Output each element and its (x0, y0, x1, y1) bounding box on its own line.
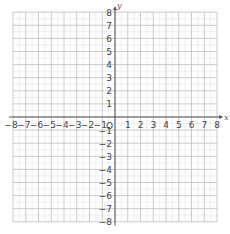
x-tick-label: 6 (189, 120, 195, 130)
x-tick-label: 3 (150, 120, 156, 130)
y-tick-label: −7 (99, 204, 112, 214)
axes (9, 6, 223, 226)
y-tick-label: 4 (106, 60, 112, 70)
y-axis-label: y (116, 1, 122, 10)
y-tick-label: −3 (99, 152, 112, 162)
y-tick-label: 2 (106, 86, 112, 96)
x-tick-label: 2 (138, 120, 144, 130)
x-tick-label: 8 (214, 120, 220, 130)
x-tick-label: 5 (176, 120, 182, 130)
y-tick-label: 7 (106, 21, 112, 31)
coordinate-plane: −8−7−6−5−4−3−2−11234567887654321−1−2−3−4… (0, 0, 230, 234)
y-tick-label: 6 (106, 34, 112, 44)
x-tick-label: 7 (201, 120, 207, 130)
y-tick-label: −8 (99, 217, 113, 227)
x-tick-label: −7 (17, 120, 30, 130)
x-tick-label: 4 (163, 120, 169, 130)
y-tick-label: 5 (106, 47, 112, 57)
x-tick-label: −6 (30, 120, 44, 130)
x-tick-label: −5 (43, 120, 56, 130)
y-tick-label: −4 (99, 165, 113, 175)
x-tick-label: −8 (4, 120, 18, 130)
y-tick-label: 1 (106, 99, 112, 109)
origin-label: O (106, 121, 113, 131)
y-tick-label: 3 (106, 73, 112, 83)
y-tick-label: 8 (106, 8, 112, 18)
y-tick-label: −6 (99, 191, 113, 201)
x-arrow-icon (219, 115, 223, 119)
x-axis-label: x (224, 113, 229, 122)
y-tick-label: −5 (99, 178, 112, 188)
x-tick-label: −2 (81, 120, 94, 130)
y-tick-label: −2 (99, 139, 112, 149)
x-tick-label: −4 (55, 120, 69, 130)
x-tick-label: 1 (125, 120, 131, 130)
x-tick-label: −3 (68, 120, 81, 130)
